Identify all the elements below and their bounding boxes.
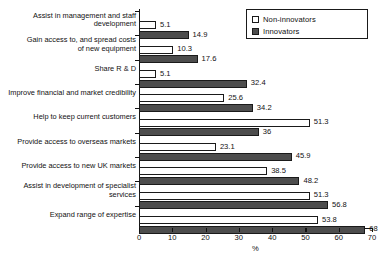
y-axis-tick: [135, 84, 140, 85]
horizontal-bar-chart: 5.114.910.317.65.132.425.634.251.33623.1…: [0, 0, 385, 264]
category-label: Assist in management and staffdevelopmen…: [0, 12, 136, 29]
bar-non-innovators: [139, 167, 267, 175]
bar-value-label: 45.9: [296, 152, 311, 160]
category-label: Share R & D: [0, 65, 136, 73]
bar-value-label: 10.3: [177, 45, 192, 53]
bar-value-label: 23.1: [220, 143, 235, 151]
x-axis-tick: [206, 228, 207, 232]
bar-value-label: 32.4: [251, 79, 266, 87]
legend-label-innovators: Innovators: [263, 27, 299, 36]
bar-innovators: [139, 128, 259, 136]
hollow-square-swatch-icon: [252, 16, 259, 23]
bar-non-innovators: [139, 119, 310, 127]
category-label-line: Expand range of expertise: [0, 211, 136, 219]
x-axis-title-text: %: [252, 244, 259, 253]
bar-innovators: [139, 55, 198, 63]
x-axis-tick-label: 20: [196, 233, 216, 242]
y-axis-tick: [135, 60, 140, 61]
x-axis-tick: [305, 228, 306, 232]
category-label-line: Improve financial and market credibility: [0, 89, 136, 97]
x-axis-tick: [372, 228, 373, 232]
bar-innovators: [139, 201, 328, 209]
legend-item-innovators: Innovators: [252, 25, 367, 37]
category-label-line: of new equipment: [0, 45, 136, 53]
x-axis-tick: [339, 228, 340, 232]
y-axis-tick: [135, 133, 140, 134]
bar-value-label: 5.1: [160, 70, 171, 78]
x-axis-tick: [239, 228, 240, 232]
y-axis-tick: [135, 157, 140, 158]
category-label-line: Provide access to overseas markets: [0, 138, 136, 146]
bar-value-label: 25.6: [228, 94, 243, 102]
category-label: Provide access to new UK markets: [0, 162, 136, 170]
y-axis-tick: [135, 206, 140, 207]
bar-value-label: 51.3: [314, 191, 329, 199]
x-axis-tick: [139, 228, 140, 232]
x-axis-title: %: [0, 244, 385, 253]
bar-non-innovators: [139, 216, 318, 224]
bar-innovators: [139, 153, 292, 161]
x-axis-tick-label: 30: [229, 233, 249, 242]
category-label-line: Provide access to new UK markets: [0, 162, 136, 170]
category-label: Gain access to, and spread costsof new e…: [0, 36, 136, 53]
category-label-line: services: [0, 191, 136, 199]
legend-label-non-innovators: Non-innovators: [263, 15, 316, 24]
bar-non-innovators: [139, 143, 216, 151]
category-label-line: Help to keep current customers: [0, 113, 136, 121]
x-axis-tick-label: 60: [329, 233, 349, 242]
bar-value-label: 34.2: [257, 104, 272, 112]
legend-item-non-innovators: Non-innovators: [252, 13, 367, 25]
bar-value-label: 36: [263, 128, 271, 136]
bar-value-label: 51.3: [314, 118, 329, 126]
bar-value-label: 53.8: [322, 216, 337, 224]
x-axis-tick: [172, 228, 173, 232]
bar-innovators: [139, 104, 253, 112]
category-label: Improve financial and market credibility: [0, 89, 136, 97]
bar-value-label: 48.2: [303, 177, 318, 185]
y-axis-tick: [135, 108, 140, 109]
x-axis-tick-label: 70: [362, 233, 382, 242]
bar-value-label: 38.5: [271, 167, 286, 175]
category-label: Provide access to overseas markets: [0, 138, 136, 146]
x-axis-tick-label: 40: [262, 233, 282, 242]
bar-value-label: 5.1: [160, 21, 171, 29]
filled-square-swatch-icon: [252, 28, 259, 35]
category-label-line: Share R & D: [0, 65, 136, 73]
bar-value-label: 56.8: [332, 201, 347, 209]
bar-value-label: 14.9: [193, 31, 208, 39]
x-axis-tick-label: 0: [129, 233, 149, 242]
bar-value-label: 17.6: [202, 55, 217, 63]
bar-innovators: [139, 177, 299, 185]
x-axis-tick-label: 50: [295, 233, 315, 242]
category-label-line: development: [0, 20, 136, 28]
bar-non-innovators: [139, 94, 224, 102]
bar-innovators: [139, 80, 247, 88]
x-axis-tick: [272, 228, 273, 232]
x-axis-tick-label: 10: [162, 233, 182, 242]
category-label: Help to keep current customers: [0, 113, 136, 121]
bar-non-innovators: [139, 70, 156, 78]
bar-non-innovators: [139, 192, 310, 200]
category-label: Assist in development of specialistservi…: [0, 182, 136, 199]
chart-legend: Non-innovators Innovators: [246, 9, 368, 39]
category-label: Expand range of expertise: [0, 211, 136, 219]
bar-innovators: [139, 31, 189, 39]
plot-area: 5.114.910.317.65.132.425.634.251.33623.1…: [139, 9, 372, 228]
bar-non-innovators: [139, 46, 173, 54]
bar-non-innovators: [139, 21, 156, 29]
